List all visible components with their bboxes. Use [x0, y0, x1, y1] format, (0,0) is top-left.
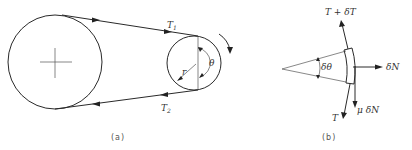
label-theta: θ	[209, 58, 215, 68]
label-t2: T2	[161, 103, 171, 114]
label-t1: T1	[167, 20, 177, 31]
normal-force-arrow-icon	[375, 65, 383, 70]
label-friction-force: μ δN	[357, 105, 380, 115]
belt-slack-side	[55, 90, 198, 109]
figure-a: T1 T2 r θ (a)	[8, 15, 233, 142]
label-tension-top: T + δT	[325, 7, 357, 17]
angle-arrow-icon	[316, 75, 320, 79]
caption-b: (b)	[322, 133, 336, 142]
belt-element	[344, 48, 355, 84]
label-tension-bottom: T	[332, 113, 339, 123]
wedge-upper-line	[282, 51, 346, 69]
wedge-lower-line	[282, 69, 346, 82]
label-normal-force: δN	[386, 62, 400, 72]
caption-a: (a)	[111, 133, 125, 142]
tension-top-vector	[342, 24, 348, 49]
belt-tight-side	[62, 15, 198, 36]
figure-b: T + δT T δN μ δN δθ (b)	[282, 7, 400, 142]
tension-bottom-vector	[344, 84, 350, 115]
label-delta-theta: δθ	[321, 62, 332, 72]
tension-bottom-arrow-icon	[341, 112, 347, 119]
angle-arrow-icon	[199, 73, 204, 78]
tension-top-arrow-icon	[339, 20, 345, 27]
belt-direction-arrow-icon	[92, 18, 100, 23]
label-radius: r	[182, 67, 187, 77]
belt-direction-arrow-icon	[92, 102, 100, 107]
rotation-arrow-icon	[227, 47, 233, 54]
belt-friction-diagram: T1 T2 r θ (a) T + δT T δN μ δN δθ	[0, 0, 412, 150]
